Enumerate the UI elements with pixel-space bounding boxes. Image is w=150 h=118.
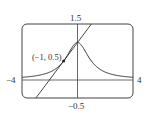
ymax-label: 1.5 xyxy=(70,14,81,23)
xmax-label: 4 xyxy=(137,76,142,85)
point-annotation: (−1, 0.5) xyxy=(32,53,62,62)
tangent-point-marker xyxy=(62,60,65,63)
ymin-label: −0.5 xyxy=(68,102,84,111)
xmin-label: −4 xyxy=(6,76,16,85)
